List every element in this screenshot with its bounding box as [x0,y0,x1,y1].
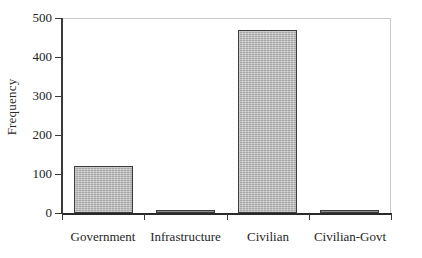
y-tick-100 [55,174,62,175]
y-axis-line [61,18,63,214]
bar-chart-figure: Frequency 500 400 300 200 100 0 Governme… [0,0,422,258]
x-tick-1 [144,214,145,220]
x-label-civilian: Civilian [227,229,309,244]
y-tick-label-0: 0 [6,206,52,219]
x-tick-4 [391,214,392,220]
y-tick-label-200: 200 [6,128,52,141]
y-tick-200 [55,135,62,136]
y-tick-500 [55,18,62,19]
y-axis-title-text: Frequency [4,78,20,135]
bar-civilian [238,30,297,213]
y-tick-label-100: 100 [6,167,52,180]
bar-government [74,166,133,213]
x-tick-2 [227,214,228,220]
bar-civilian-govt [320,210,379,213]
y-tick-label-300: 300 [6,89,52,102]
y-tick-400 [55,57,62,58]
y-tick-300 [55,96,62,97]
y-axis-title: Frequency [0,0,24,213]
x-label-civilian-govt: Civilian-Govt [309,229,391,244]
x-tick-0 [62,214,63,220]
x-tick-3 [309,214,310,220]
y-tick-label-400: 400 [6,50,52,63]
x-label-infrastructure: Infrastructure [144,229,227,244]
bar-infrastructure [156,210,215,213]
y-tick-0 [55,213,62,214]
y-tick-label-500: 500 [6,11,52,24]
x-label-government: Government [62,229,144,244]
